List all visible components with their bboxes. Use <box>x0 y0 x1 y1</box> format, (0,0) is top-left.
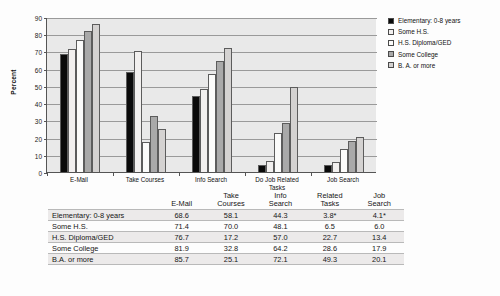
legend-swatch-icon <box>388 29 394 35</box>
bar <box>150 116 158 172</box>
table-cell: 22.7 <box>305 232 354 243</box>
data-table-wrapper: E-MailTake CoursesInfo SearchRelated Tas… <box>48 192 404 265</box>
bar <box>356 137 364 172</box>
bar <box>266 161 274 172</box>
table-cell: 4.1* <box>355 210 404 221</box>
table-header: E-MailTake CoursesInfo SearchRelated Tas… <box>48 192 404 210</box>
table-row-label: Some College <box>48 243 157 254</box>
table-cell: 72.1 <box>256 254 305 265</box>
bar-group <box>245 17 311 172</box>
bar-group <box>113 17 179 172</box>
table-cell: 70.0 <box>206 221 255 232</box>
bar <box>348 141 356 172</box>
y-tick-label: 80 <box>35 32 42 39</box>
legend-item-label: H.S. Diploma/GED <box>398 39 451 46</box>
bar <box>324 165 332 172</box>
y-tick-label: 10 <box>35 152 42 159</box>
table-row-label: Elementary: 0-8 years <box>48 210 157 221</box>
y-tick-label: 90 <box>35 15 42 22</box>
table-cell: 32.8 <box>206 243 255 254</box>
bar <box>282 123 290 172</box>
y-tick-label: 50 <box>35 83 42 90</box>
table-cell: 81.9 <box>157 243 206 254</box>
bar <box>340 149 348 172</box>
x-axis-label: Job Search <box>310 176 376 184</box>
table-row-label: H.S. Diploma/GED <box>48 232 157 243</box>
bar <box>332 162 340 172</box>
bar-group <box>179 17 245 172</box>
bar <box>76 40 84 172</box>
legend-item[interactable]: Elementary: 0-8 years <box>388 17 498 24</box>
table-cell: 64.2 <box>256 243 305 254</box>
legend-swatch-icon <box>388 51 394 57</box>
table-body: Elementary: 0-8 years68.658.144.33.8*4.1… <box>48 210 404 265</box>
table-cell: 6.0 <box>355 221 404 232</box>
bar <box>258 165 266 172</box>
table-cell: 48.1 <box>256 221 305 232</box>
bar <box>216 61 224 172</box>
table-cell: 44.3 <box>256 210 305 221</box>
table-cell: 76.7 <box>157 232 206 243</box>
bar <box>84 31 92 172</box>
y-tick-label: 20 <box>35 135 42 142</box>
bar <box>68 49 76 172</box>
y-tick-label: 30 <box>35 118 42 125</box>
plot-area: 0102030405060708090 <box>46 18 376 173</box>
table-column-header: E-Mail <box>157 192 206 210</box>
legend-item-label: Some College <box>398 51 438 58</box>
legend-swatch-icon <box>388 62 394 68</box>
bar-chart: Percent 0102030405060708090 E-MailTake C… <box>0 4 500 200</box>
table-cell: 57.0 <box>256 232 305 243</box>
legend-item-label: Elementary: 0-8 years <box>398 17 461 24</box>
table-cell: 13.4 <box>355 232 404 243</box>
table-column-header: Related Tasks <box>305 192 354 210</box>
table-row-label: Some H.S. <box>48 221 157 232</box>
legend-item[interactable]: Some H.S. <box>388 28 498 35</box>
table-row: B.A. or more85.725.172.149.320.1 <box>48 254 404 265</box>
table-cell: 71.4 <box>157 221 206 232</box>
table-cell: 68.6 <box>157 210 206 221</box>
table-cell: 20.1 <box>355 254 404 265</box>
chart-page: Percent 0102030405060708090 E-MailTake C… <box>0 0 500 296</box>
bar <box>60 54 68 172</box>
bar <box>192 96 200 172</box>
bar-group <box>311 17 377 172</box>
table-cell: 6.5 <box>305 221 354 232</box>
x-axis-label: Take Courses <box>112 176 178 184</box>
table-corner-cell <box>48 192 157 210</box>
legend-item[interactable]: Some College <box>388 51 498 58</box>
legend-item[interactable]: H.S. Diploma/GED <box>388 39 498 46</box>
chart-legend: Elementary: 0-8 yearsSome H.S.H.S. Diplo… <box>388 17 498 73</box>
table-row: H.S. Diploma/GED76.717.257.022.713.4 <box>48 232 404 243</box>
y-axis-label: Percent <box>10 69 17 94</box>
bar <box>274 133 282 172</box>
legend-item[interactable]: B. A. or more <box>388 62 498 69</box>
y-tick-label: 0 <box>38 170 42 177</box>
plot-wrapper: 0102030405060708090 E-MailTake CoursesIn… <box>46 18 376 173</box>
table-cell: 17.2 <box>206 232 255 243</box>
table-cell: 3.8* <box>305 210 354 221</box>
x-axis-label: E-Mail <box>46 176 112 184</box>
bar-group <box>47 17 113 172</box>
bar <box>224 48 232 172</box>
table-column-header: Info Search <box>256 192 305 210</box>
table-cell: 17.9 <box>355 243 404 254</box>
x-axis-label: Info Search <box>178 176 244 184</box>
y-tick-label: 70 <box>35 49 42 56</box>
bar <box>290 87 298 172</box>
bar <box>92 24 100 172</box>
x-axis-label: Do Job Related Tasks <box>244 176 310 191</box>
table-cell: 25.1 <box>206 254 255 265</box>
table-column-header: Take Courses <box>206 192 255 210</box>
y-tick-label: 60 <box>35 66 42 73</box>
bar <box>200 89 208 172</box>
table-cell: 28.6 <box>305 243 354 254</box>
table-header-row: E-MailTake CoursesInfo SearchRelated Tas… <box>48 192 404 210</box>
table-row-label: B.A. or more <box>48 254 157 265</box>
table-row: Some College81.932.864.228.617.9 <box>48 243 404 254</box>
bar <box>208 74 216 172</box>
legend-item-label: B. A. or more <box>398 62 435 69</box>
legend-swatch-icon <box>388 18 394 24</box>
legend-swatch-icon <box>388 40 394 46</box>
table-cell: 58.1 <box>206 210 255 221</box>
